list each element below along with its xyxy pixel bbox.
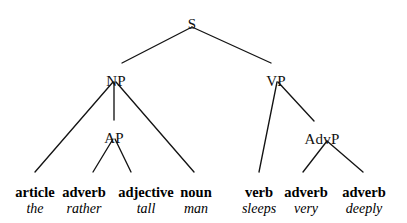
- node-vp: VP: [266, 74, 286, 89]
- leaf-category-0: article: [15, 185, 54, 200]
- leaf-category-5: adverb: [284, 185, 328, 200]
- leaf-word-1: rather: [67, 202, 102, 216]
- leaf-category-1: adverb: [62, 185, 106, 200]
- leaf-word-0: the: [26, 202, 43, 216]
- tree-edge-np-to-noun: [116, 82, 194, 172]
- leaf-word-4: sleeps: [242, 202, 276, 216]
- node-np: NP: [106, 74, 126, 89]
- leaf-category-4: verb: [245, 185, 273, 200]
- node-s: S: [188, 17, 197, 32]
- leaf-word-2: tall: [137, 202, 156, 216]
- leaf-word-6: deeply: [346, 202, 383, 216]
- leaf-category-2: adjective: [118, 185, 174, 200]
- leaf-word-3: man: [184, 202, 208, 216]
- syntax-tree-diagram: S NP VP AP AdvP articletheadverbratherad…: [0, 0, 407, 223]
- leaf-category-6: adverb: [342, 185, 386, 200]
- node-ap: AP: [104, 131, 124, 146]
- tree-edge-s-to-vp: [192, 27, 271, 63]
- node-advp: AdvP: [305, 132, 340, 147]
- tree-edge-vp-to-verb: [259, 82, 277, 172]
- leaf-category-3: noun: [180, 185, 211, 200]
- leaf-word-5: very: [294, 202, 318, 216]
- tree-edge-s-to-np: [122, 27, 192, 63]
